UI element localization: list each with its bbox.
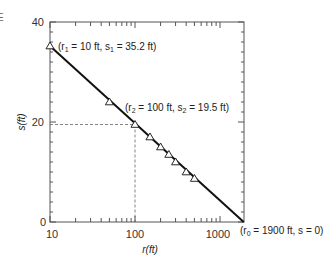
guide-lines (50, 125, 135, 223)
x-axis-label: r(ft) (142, 244, 158, 255)
data-series (46, 42, 244, 222)
y-tick-0: 0 (40, 216, 46, 228)
annotation-r0: (r0 = 1900 ft, s = 0) (240, 225, 323, 237)
y-axis-label: s(ft) (16, 113, 27, 130)
y-tick-40: 40 (32, 16, 44, 28)
x-tick-100: 100 (126, 228, 144, 240)
annotation-r1: (r1 = 10 ft, s1 = 35.2 ft) (58, 41, 156, 53)
x-tick-10: 10 (46, 228, 58, 240)
drawdown-chart: 40 20 0 10 100 1000 r(ft) s(ft) (r1 = 10… (0, 0, 336, 261)
axis-ticks (50, 22, 244, 222)
triangle-marker-icon (46, 42, 54, 49)
y-tick-20: 20 (32, 116, 44, 128)
annotation-r2: (r2 = 100 ft, s2 = 19.5 ft) (125, 102, 229, 114)
fitted-line (50, 46, 244, 222)
x-tick-1000: 1000 (206, 228, 230, 240)
plot-frame (50, 22, 244, 222)
